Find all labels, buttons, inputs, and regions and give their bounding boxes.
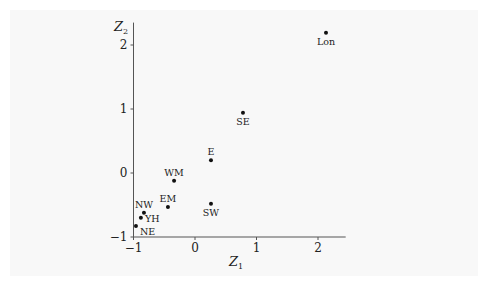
point-marker bbox=[209, 158, 213, 162]
x-tick-label: 1 bbox=[253, 241, 261, 255]
point-marker bbox=[139, 216, 143, 220]
x-axis-label: Z1 bbox=[228, 254, 243, 271]
data-point-se: SE bbox=[236, 111, 250, 127]
y-tick-label: 1 bbox=[120, 102, 128, 116]
point-marker bbox=[166, 205, 170, 209]
point-marker bbox=[241, 111, 245, 115]
point-marker bbox=[209, 202, 213, 206]
point-marker bbox=[134, 224, 138, 228]
point-label: EM bbox=[160, 193, 177, 204]
y-tick-label: 2 bbox=[120, 38, 128, 52]
point-label: NW bbox=[135, 199, 153, 210]
y-tick-label: −1 bbox=[110, 230, 128, 244]
point-label: Lon bbox=[317, 36, 335, 47]
x-tick-label: 0 bbox=[191, 241, 199, 255]
y-tick-label: 0 bbox=[120, 166, 128, 180]
data-point-em: EM bbox=[160, 193, 177, 209]
point-label: NE bbox=[140, 226, 155, 237]
y-axis-label: Z2 bbox=[113, 19, 128, 36]
data-point-sw: SW bbox=[203, 202, 220, 218]
data-point-ne: NE bbox=[134, 224, 155, 237]
point-marker bbox=[324, 31, 328, 35]
data-point-lon: Lon bbox=[317, 31, 335, 47]
point-label: WM bbox=[164, 167, 184, 178]
data-point-yh: YH bbox=[139, 213, 160, 224]
data-points: LonSEESWWMEMNWYHNE bbox=[134, 31, 335, 237]
point-label: SW bbox=[203, 207, 220, 218]
point-label: SE bbox=[236, 116, 250, 127]
x-tick-label: 2 bbox=[314, 241, 322, 255]
point-label: YH bbox=[144, 213, 160, 224]
point-label: E bbox=[208, 146, 215, 157]
data-point-e: E bbox=[208, 146, 215, 162]
scatter-chart: −1012−1012 LonSEESWWMEMNWYHNE Z1 Z2 bbox=[0, 0, 488, 288]
point-marker bbox=[172, 179, 176, 183]
data-point-wm: WM bbox=[164, 167, 184, 183]
